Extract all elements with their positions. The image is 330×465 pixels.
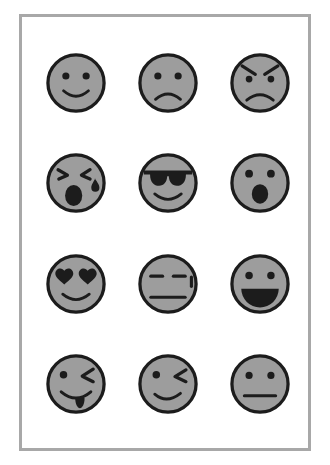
right-eye-icon xyxy=(267,372,274,379)
left-eye-icon xyxy=(60,371,67,378)
right-eye-icon xyxy=(268,76,275,83)
sheet-frame-border xyxy=(19,14,311,451)
right-eye-icon xyxy=(267,271,274,278)
emoji-face-grinning-face[interactable] xyxy=(214,238,306,330)
left-eye-icon xyxy=(153,371,160,378)
right-eye-icon xyxy=(175,73,182,80)
emoji-face-unamused-face[interactable] xyxy=(122,238,214,330)
face-circle xyxy=(232,55,288,111)
face-circle xyxy=(140,256,196,312)
emoji-face-surprised-face[interactable] xyxy=(214,137,306,229)
open-mouth-icon xyxy=(252,185,268,205)
left-eye-icon xyxy=(62,73,69,80)
face-circle xyxy=(48,55,104,111)
emoji-face-cool-face[interactable] xyxy=(122,137,214,229)
face-circle xyxy=(140,356,196,412)
right-eye-icon xyxy=(267,170,275,178)
open-mouth-icon xyxy=(65,185,82,206)
left-eye-icon xyxy=(154,73,161,80)
left-eye-icon xyxy=(246,76,253,83)
left-eye-icon xyxy=(245,372,252,379)
right-eye-icon xyxy=(83,73,90,80)
face-circle xyxy=(48,256,104,312)
face-circle xyxy=(232,356,288,412)
emoji-sheet xyxy=(0,0,330,465)
emoji-face-angry-face[interactable] xyxy=(214,37,306,129)
face-circle xyxy=(140,155,196,211)
emoji-grid xyxy=(22,17,308,448)
left-eye-icon xyxy=(245,271,252,278)
emoji-face-crying-face[interactable] xyxy=(30,137,122,229)
emoji-face-winking-face[interactable] xyxy=(122,338,214,430)
emoji-face-tongue-wink-face[interactable] xyxy=(30,338,122,430)
emoji-face-heart-eyes-face[interactable] xyxy=(30,238,122,330)
emoji-face-frowning-face[interactable] xyxy=(122,37,214,129)
face-circle xyxy=(140,55,196,111)
left-eye-icon xyxy=(245,170,253,178)
emoji-face-smiling-face[interactable] xyxy=(30,37,122,129)
emoji-face-neutral-face[interactable] xyxy=(214,338,306,430)
